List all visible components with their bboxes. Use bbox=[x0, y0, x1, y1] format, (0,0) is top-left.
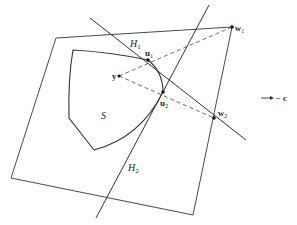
diagram: H1 H2 u1 u2 w1 w2 y S − c bbox=[0, 0, 297, 225]
point-u2 bbox=[161, 90, 165, 94]
label-h1: H1 bbox=[129, 38, 141, 51]
point-w1 bbox=[230, 25, 234, 29]
label-minus-c: − c bbox=[276, 93, 287, 103]
convex-set-s bbox=[69, 50, 163, 150]
label-u1: u1 bbox=[145, 48, 153, 59]
label-w1: w1 bbox=[235, 23, 244, 34]
label-u2: u2 bbox=[160, 98, 168, 109]
label-y: y bbox=[112, 71, 117, 81]
label-w2: w2 bbox=[218, 108, 227, 119]
dashed-y-w2 bbox=[119, 76, 214, 118]
label-s: S bbox=[101, 110, 106, 121]
label-h2: H2 bbox=[127, 162, 139, 175]
arrowhead-icon bbox=[270, 96, 274, 100]
point-w2 bbox=[212, 116, 216, 120]
hyperplane-h2 bbox=[96, 5, 209, 218]
point-y bbox=[118, 75, 121, 78]
